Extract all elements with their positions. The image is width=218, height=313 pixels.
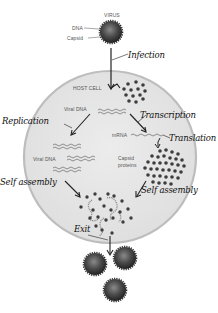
- virus-icon: [84, 21, 123, 44]
- step-translation: Translation: [169, 133, 216, 143]
- mrna-label: mRNA: [112, 132, 127, 138]
- step-transcription: Transcription: [140, 110, 196, 120]
- viral-dna-label-top: Viral DNA: [64, 106, 87, 112]
- viral-replication-diagram: VIRUS DNA Capsid Infection Replication T…: [0, 0, 218, 313]
- step-infection: Infection: [128, 50, 165, 60]
- step-self-assembly-right: Self assembly: [141, 185, 198, 195]
- virus-label: VIRUS: [104, 12, 120, 18]
- dna-label: DNA: [72, 25, 83, 31]
- step-replication: Replication: [2, 116, 49, 126]
- capsid-proteins-label-2: proteins: [118, 162, 137, 168]
- step-self-assembly-left: Self assembly: [0, 177, 57, 187]
- capsid-label: Capsid: [67, 35, 83, 41]
- capsid-proteins-label-1: Capsid: [118, 155, 134, 161]
- step-exit: Exit: [74, 224, 90, 234]
- viral-dna-label-bottom: Viral DNA: [33, 156, 56, 162]
- host-cell-label: HOST CELL: [73, 85, 102, 91]
